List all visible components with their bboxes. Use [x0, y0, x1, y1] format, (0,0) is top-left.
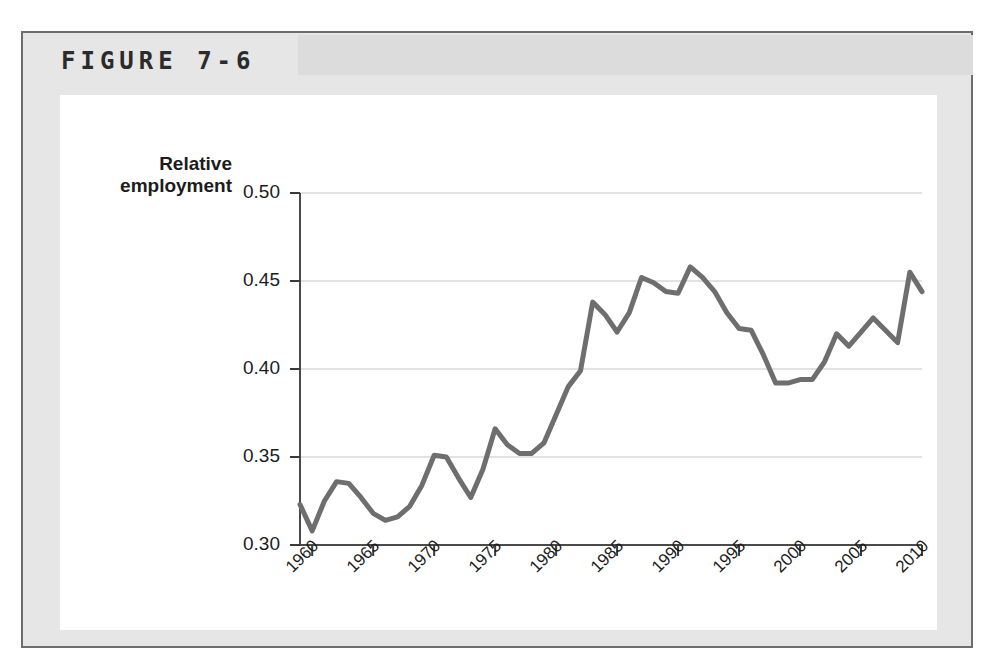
figure-title: FIGURE 7-6	[61, 47, 256, 75]
figure-panel: FIGURE 7-6 Relative employment 0.300.350…	[21, 31, 973, 648]
data-line-relative-employment	[300, 267, 922, 531]
y-tick-label: 0.45	[222, 269, 280, 291]
y-tick-label: 0.50	[222, 181, 280, 203]
y-tick-label: 0.40	[222, 357, 280, 379]
y-tick-label: 0.35	[222, 445, 280, 467]
plot-area: 0.300.350.400.450.50 1960196519701975198…	[60, 95, 937, 630]
tick-marks	[290, 193, 922, 556]
chart-card: Relative employment 0.300.350.400.450.50…	[60, 95, 937, 630]
title-band	[298, 35, 973, 75]
figure-page: FIGURE 7-6 Relative employment 0.300.350…	[0, 0, 994, 648]
y-tick-label: 0.30	[222, 533, 280, 555]
